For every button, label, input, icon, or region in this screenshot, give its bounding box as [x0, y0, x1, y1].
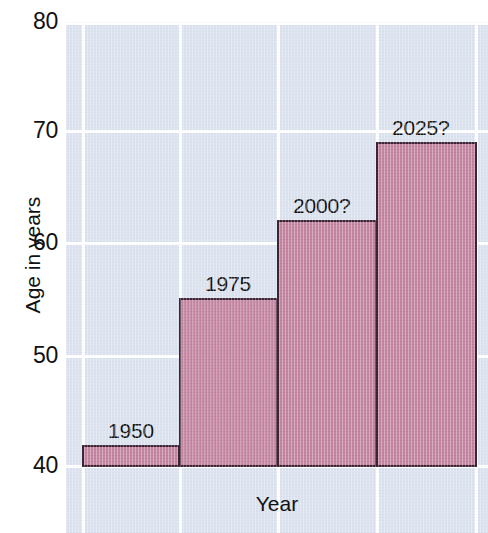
bar-label-2000: 2000?	[293, 194, 350, 218]
bar-label-2025: 2025?	[392, 116, 449, 140]
y-tick-40: 40	[33, 452, 58, 479]
bar-1950	[82, 445, 180, 467]
y-tick-50: 50	[33, 342, 58, 369]
y-axis-title: Age in years	[21, 165, 45, 345]
bar-label-1950: 1950	[108, 419, 154, 443]
bar-1975	[179, 298, 278, 467]
bar-2025	[376, 142, 477, 467]
bars-layer: 1950 1975 2000? 2025?	[66, 22, 488, 533]
bar-2000	[277, 220, 377, 467]
bar-label-1975: 1975	[205, 272, 251, 296]
plot-panel: 1950 1975 2000? 2025?	[66, 22, 488, 533]
x-axis-title: Year	[66, 492, 488, 516]
y-tick-80: 80	[33, 8, 58, 35]
y-tick-70: 70	[33, 117, 58, 144]
bar-chart-figure: 80 70 60 50 40 Age in years 1950 1975	[0, 0, 488, 533]
